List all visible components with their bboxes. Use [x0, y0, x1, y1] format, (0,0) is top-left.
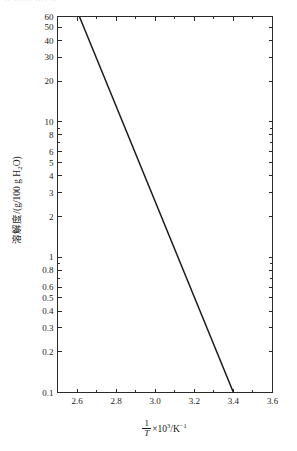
y-axis-title: 溶解度/(g/100 g H2O)	[9, 100, 24, 300]
x-axis-units-exponent2: −1	[180, 422, 187, 429]
x-tick-label: 2.6	[71, 396, 83, 406]
y-tick-label: 4	[49, 171, 54, 181]
axes-group: 2.62.83.03.23.43.60.10.20.30.40.50.60.81…	[42, 12, 278, 406]
y-tick-label: 6	[49, 147, 54, 157]
y-tick-label: 8	[49, 130, 54, 140]
x-tick-label: 3.2	[189, 396, 200, 406]
y-tick-label: 2	[49, 212, 54, 222]
x-axis-title-numerator: 1	[142, 419, 151, 428]
y-tick-label: 1	[49, 252, 54, 262]
plot-frame	[58, 17, 273, 393]
solubility-line	[79, 17, 233, 393]
y-tick-label: 5	[49, 158, 54, 168]
y-tick-label: 0.4	[42, 306, 54, 316]
y-tick-label: 0.5	[42, 293, 54, 303]
x-axis-units-mid: /K	[170, 425, 180, 435]
x-axis-units-pre: ×10	[152, 425, 167, 435]
y-axis-title-subscript: 2	[16, 166, 24, 170]
plot-area: 2.62.83.03.23.43.60.10.20.30.40.50.60.81…	[0, 0, 297, 451]
x-axis-title-units: ×103/K−1	[152, 422, 187, 434]
y-tick-label: 10	[45, 117, 55, 127]
y-tick-label: 50	[45, 22, 55, 32]
x-tick-label: 3.6	[267, 396, 279, 406]
solubility-figure: ·· ··· ·· ···· ·· 2.62.83.03.23.43.60.10…	[0, 0, 297, 451]
x-tick-label: 2.8	[111, 396, 123, 406]
y-axis-title-tail: O)	[12, 156, 22, 166]
y-axis-title-main: 溶解度/(g/100 g H	[12, 170, 22, 244]
x-tick-label: 3.4	[228, 396, 240, 406]
y-tick-label: 0.6	[42, 282, 54, 292]
y-tick-label: 0.2	[42, 347, 53, 357]
y-tick-label: 60	[45, 12, 55, 22]
y-tick-label: 40	[45, 36, 55, 46]
y-tick-label: 0.3	[42, 323, 54, 333]
x-axis-title: 1 T ×103/K−1	[57, 417, 272, 438]
y-tick-label: 30	[45, 52, 55, 62]
y-tick-label: 0.8	[42, 265, 54, 275]
y-tick-label: 0.1	[42, 388, 53, 398]
y-tick-label: 3	[49, 188, 54, 198]
x-axis-title-denominator: T	[142, 429, 151, 438]
y-tick-label: 20	[45, 76, 55, 86]
x-axis-title-fraction: 1 T	[142, 419, 151, 438]
x-tick-label: 3.0	[150, 396, 162, 406]
